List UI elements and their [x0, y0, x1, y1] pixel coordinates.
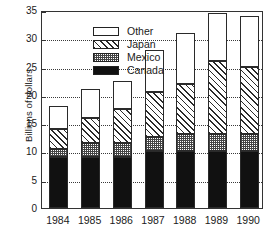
bar-segment-japan: [176, 84, 195, 135]
bar-segment-mexico: [113, 143, 132, 157]
bar: [113, 81, 132, 208]
bar-segment-mexico: [176, 134, 195, 151]
bar: [49, 106, 68, 208]
y-axis-tick-label: 0: [15, 204, 37, 214]
bar-segment-canada: [176, 151, 195, 208]
y-axis-tick-mark: [42, 153, 46, 154]
bar: [81, 89, 100, 208]
x-axis-tick-label: 1988: [169, 214, 201, 226]
x-axis-tick-label: 1987: [137, 214, 169, 226]
y-axis-tick-label: 20: [15, 91, 37, 101]
bar-segment-mexico: [81, 143, 100, 157]
legend-item-label: Canada: [127, 65, 164, 76]
legend-item-label: Japan: [127, 39, 156, 50]
bar: [208, 13, 227, 208]
bar-segment-canada: [240, 151, 259, 208]
hatched-swatch-icon: [93, 40, 119, 49]
bar-segment-mexico: [208, 134, 227, 151]
bar-segment-mexico: [240, 134, 259, 151]
legend-item-label: Other: [127, 26, 153, 37]
bar-segment-other: [240, 16, 259, 67]
white-swatch-icon: [93, 27, 119, 36]
plot-area: Other Japan Mexico Canada: [41, 11, 263, 209]
bar-segment-other: [81, 89, 100, 117]
y-axis-tick-label: 5: [15, 176, 37, 186]
legend-item-label: Mexico: [127, 52, 160, 63]
stacked-bar-chart: Billions of dollars 05101520253035 Other…: [0, 0, 272, 243]
y-axis-tick-label: 15: [15, 119, 37, 129]
bar-segment-japan: [81, 118, 100, 143]
y-axis-tick-labels: 05101520253035: [12, 0, 37, 243]
bar-segment-canada: [113, 157, 132, 208]
y-axis-tick-mark: [42, 182, 46, 183]
y-axis-tick-label: 35: [15, 6, 37, 16]
bar-segment-japan: [240, 67, 259, 135]
x-axis-tick-label: 1984: [42, 214, 74, 226]
bar-segment-canada: [81, 157, 100, 208]
bar-segment-canada: [145, 151, 164, 208]
bar-segment-japan: [145, 92, 164, 137]
bar-segment-other: [49, 106, 68, 129]
y-axis-tick-label: 30: [15, 34, 37, 44]
legend-item: Canada: [93, 64, 185, 77]
y-axis-tick-mark: [42, 125, 46, 126]
bar-segment-japan: [113, 109, 132, 143]
y-axis-tick-label: 25: [15, 63, 37, 73]
bar: [240, 16, 259, 208]
bar-segment-other: [113, 81, 132, 109]
y-axis-tick-mark: [42, 97, 46, 98]
x-axis-tick-label: 1985: [74, 214, 106, 226]
y-axis-tick-mark: [42, 40, 46, 41]
bar-segment-mexico: [49, 149, 68, 157]
y-axis-tick-mark: [42, 12, 46, 13]
stippled-swatch-icon: [93, 53, 119, 62]
bar-segment-japan: [208, 61, 227, 135]
black-swatch-icon: [93, 66, 119, 75]
legend-item: Mexico: [93, 51, 185, 64]
y-axis-tick-mark: [42, 69, 46, 70]
chart-legend: Other Japan Mexico Canada: [93, 25, 185, 77]
x-axis-tick-label: 1989: [200, 214, 232, 226]
bar-segment-mexico: [145, 137, 164, 151]
x-axis-tick-labels: 1984198519861987198819891990: [41, 214, 263, 234]
bar-segment-canada: [49, 157, 68, 208]
y-axis-tick-label: 10: [15, 147, 37, 157]
legend-item: Japan: [93, 38, 185, 51]
x-axis-tick-label: 1986: [105, 214, 137, 226]
bar-segment-canada: [208, 151, 227, 208]
legend-item: Other: [93, 25, 185, 38]
bar-segment-other: [208, 13, 227, 61]
bar-segment-japan: [49, 129, 68, 149]
x-axis-tick-label: 1990: [232, 214, 264, 226]
